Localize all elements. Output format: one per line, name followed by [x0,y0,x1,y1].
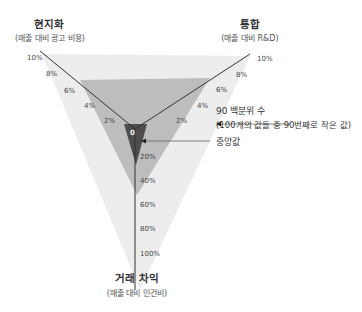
radar-chart [0,0,362,312]
left-tick-8: 8% [46,70,57,78]
axis-title-localization: 현지화 [24,16,74,31]
bottom-tick-100: 100% [140,250,160,258]
legend-median-label: 중앙값 [216,135,240,148]
bottom-tick-80: 80% [140,225,156,233]
legend-p90-description: (100개의 값들 중 90번째로 작은 값) [216,118,351,130]
left-tick-2: 2% [104,117,115,125]
bottom-tick-40: 40% [140,177,156,185]
bottom-tick-60: 60% [140,201,156,209]
right-tick-4: 4% [197,102,208,110]
right-tick-6: 6% [216,86,227,94]
axis-sub-integration: (매출 대비 R&D) [205,32,295,43]
right-tick-10: 10% [257,55,273,63]
left-tick-4: 4% [84,102,95,110]
axis-title-integration: 통합 [220,16,280,31]
right-tick-2: 2% [176,117,187,125]
axis-sub-arbitrage: (매출 대비 인건비) [92,287,182,298]
right-tick-8: 8% [236,71,247,79]
axis-sub-localization: (매출 대비 광고 비용) [8,32,92,43]
legend-p90-label: 90 백분위 수 [216,104,265,117]
left-tick-6: 6% [64,87,75,95]
axis-title-arbitrage: 거래 차익 [105,270,169,285]
bottom-tick-20: 20% [140,153,156,161]
left-tick-10: 10% [27,54,43,62]
center-zero-label: 0 [130,129,135,137]
